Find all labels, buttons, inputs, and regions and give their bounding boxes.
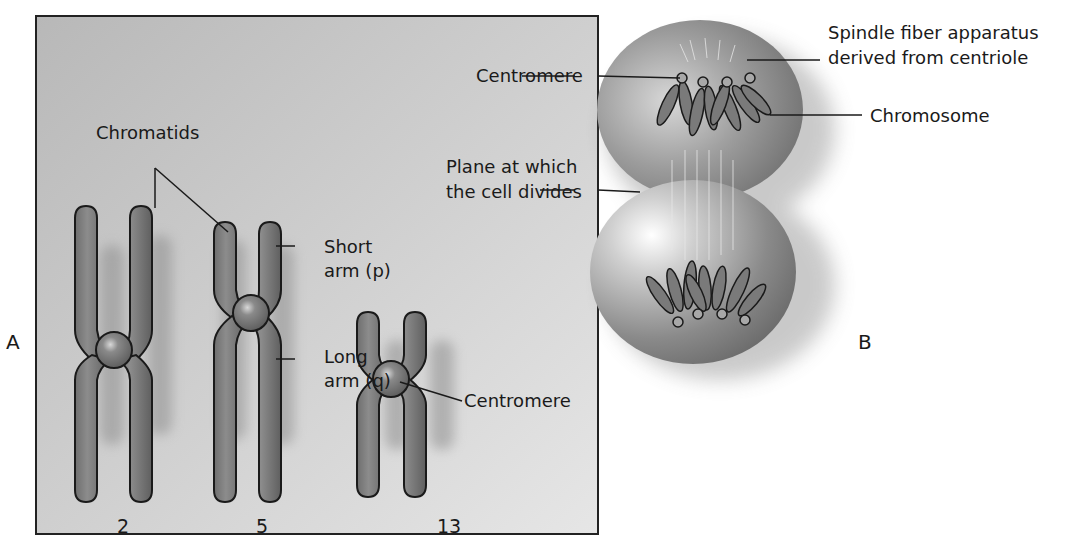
centromere-label-a: Centromere bbox=[464, 390, 571, 411]
plane-label-line1: Plane at which bbox=[446, 156, 577, 177]
chromosome-number-13: 13 bbox=[437, 515, 461, 537]
panel-b-letter: B bbox=[858, 330, 872, 354]
chromosome-label: Chromosome bbox=[870, 105, 990, 126]
chromatids-label: Chromatids bbox=[96, 122, 199, 143]
spindle-label-line2: derived from centriole bbox=[828, 47, 1028, 68]
plane-label-line2: the cell divides bbox=[446, 181, 582, 202]
chromosome-number-2: 2 bbox=[117, 515, 129, 537]
short-arm-label-line1: Short bbox=[324, 236, 372, 257]
centromere-label-b: Centromere bbox=[476, 65, 583, 86]
diagram-stage: A Chromatids Short arm (p) Long arm (q) … bbox=[0, 0, 1090, 551]
long-arm-label-line2: arm (q) bbox=[324, 370, 391, 391]
spindle-label-line1: Spindle fiber apparatus bbox=[828, 22, 1039, 43]
chromosome-number-5: 5 bbox=[256, 515, 268, 537]
short-arm-label-line2: arm (p) bbox=[324, 260, 391, 281]
panel-a-letter: A bbox=[6, 330, 20, 354]
long-arm-label-line1: Long bbox=[324, 346, 368, 367]
